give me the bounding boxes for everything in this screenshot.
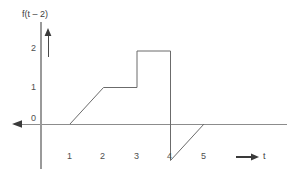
x-axis (12, 120, 287, 128)
x-tick-label-4: 4 (167, 152, 172, 161)
t-direction-arrow-icon (236, 154, 259, 161)
x-axis-label: t (263, 152, 266, 161)
chart-figure: f(t – 2) 2 1 0 1 2 3 4 5 t (0, 0, 297, 185)
x-tick-label-3: 3 (134, 152, 139, 161)
signal-curve (70, 51, 204, 161)
chart-canvas (0, 0, 297, 185)
y-tick-label-2: 2 (31, 44, 36, 53)
y-tick-label-1: 1 (31, 83, 36, 92)
x-tick-label-1: 1 (67, 152, 72, 161)
x-axis-left-arrowhead-icon (12, 120, 22, 128)
y-tick-label-0: 0 (31, 114, 36, 123)
y-axis-arrowhead (45, 28, 52, 36)
y-axis-up-arrow-icon (45, 28, 52, 57)
t-arrowhead (251, 154, 259, 161)
chart-title: f(t – 2) (22, 10, 48, 19)
x-tick-label-2: 2 (100, 152, 105, 161)
x-tick-label-5: 5 (201, 152, 206, 161)
